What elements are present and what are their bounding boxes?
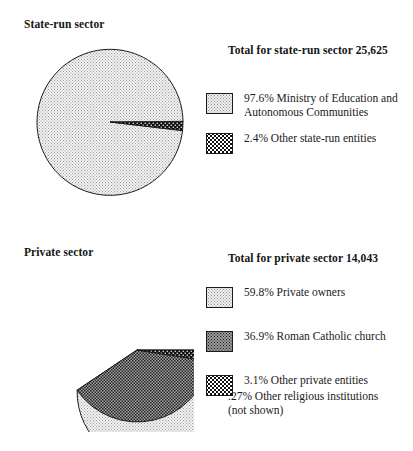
legend-item-roman-catholic-text: 36.9% Roman Catholic church [244,330,386,344]
state-run-sector-title: State-run sector [24,18,104,30]
legend-line-2: Autonomous Communities [244,106,398,120]
state-run-legend: 97.6% Ministry of Education and Autonomo… [206,92,398,154]
private-sector-panel: Private sector Total for private sector … [0,228,413,451]
state-run-sector-panel: State-run sector [0,0,413,228]
legend-line-1: 3.1% Other private entities [244,374,368,388]
legend-item-ministry-text: 97.6% Ministry of Education and Autonomo… [244,92,398,119]
legend-item-ministry[interactable]: 97.6% Ministry of Education and Autonomo… [206,92,398,119]
legend-item-private-owners[interactable]: 59.8% Private owners [206,286,386,308]
private-legend: 59.8% Private owners 36.9% Roman Catholi… [206,286,386,396]
private-pie-svg [30,270,194,432]
legend-swatch-light-stipple-icon [206,287,233,308]
state-run-pie-svg [30,44,194,204]
legend-swatch-medium-checker-icon [206,331,233,352]
note-line-2: (not shown) [228,404,378,418]
legend-item-other-state-run-text: 2.4% Other state-run entities [244,132,376,146]
private-total-label: Total for private sector 14,043 [228,252,378,264]
legend-item-private-owners-text: 59.8% Private owners [244,286,345,300]
legend-line-1: 2.4% Other state-run entities [244,132,376,146]
state-run-total-label: Total for state-run sector 25,625 [228,44,388,56]
private-not-shown-note: .27% Other religious institutions (not s… [228,390,378,417]
state-run-pie-chart [30,44,194,204]
legend-line-1: 97.6% Ministry of Education and [244,92,398,106]
legend-line-1: 36.9% Roman Catholic church [244,330,386,344]
private-pie-chart [30,270,194,432]
note-line-1: .27% Other religious institutions [228,390,378,404]
legend-swatch-dark-checker-icon [206,133,233,154]
private-sector-title: Private sector [24,246,93,258]
legend-item-other-private-text: 3.1% Other private entities [244,374,368,388]
legend-item-roman-catholic[interactable]: 36.9% Roman Catholic church [206,330,386,352]
legend-line-1: 59.8% Private owners [244,286,345,300]
legend-swatch-light-stipple-icon [206,93,233,114]
legend-item-other-state-run[interactable]: 2.4% Other state-run entities [206,132,398,154]
